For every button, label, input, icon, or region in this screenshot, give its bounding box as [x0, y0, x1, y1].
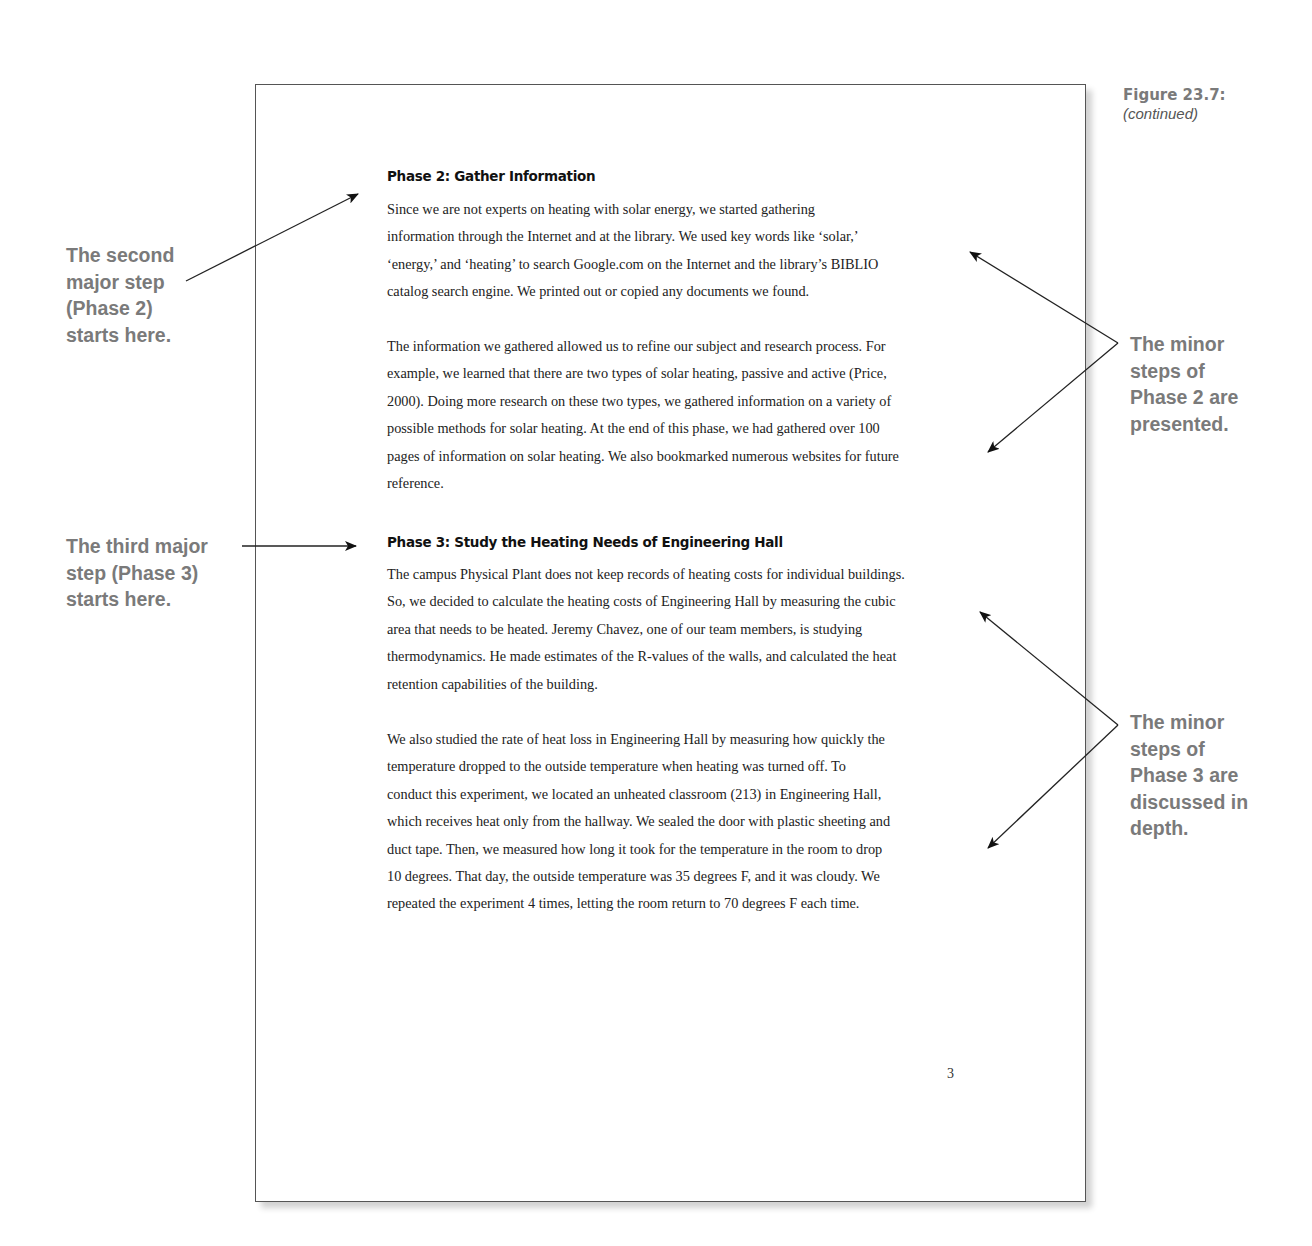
callout-line: (Phase 2): [66, 295, 174, 322]
callout-line: The minor: [1130, 331, 1238, 358]
text-line: retention capabilities of the building.: [387, 671, 962, 698]
section-heading-phase-3: Phase 3: Study the Heating Needs of Engi…: [387, 534, 783, 550]
text-line: We also studied the rate of heat loss in…: [387, 726, 962, 753]
callout-line: The second: [66, 242, 174, 269]
page-number: 3: [947, 1066, 954, 1082]
callout-line: depth.: [1130, 815, 1248, 842]
callout-phase-3-start: The third major step (Phase 3) starts he…: [66, 533, 208, 613]
paragraph-phase-3-intro: The campus Physical Plant does not keep …: [387, 561, 962, 698]
paragraph-phase-2-details: The information we gathered allowed us t…: [387, 333, 962, 497]
section-heading-phase-2: Phase 2: Gather Information: [387, 168, 595, 184]
figure-subtitle: (continued): [1123, 105, 1198, 122]
text-line: thermodynamics. He made estimates of the…: [387, 643, 962, 670]
text-line: example, we learned that there are two t…: [387, 360, 962, 387]
text-line: So, we decided to calculate the heating …: [387, 588, 962, 615]
text-line: 2000). Doing more research on these two …: [387, 388, 962, 415]
text-line: temperature dropped to the outside tempe…: [387, 753, 962, 780]
callout-line: discussed in: [1130, 789, 1248, 816]
text-line: Since we are not experts on heating with…: [387, 196, 962, 223]
callout-line: Phase 3 are: [1130, 762, 1248, 789]
callout-phase-2-minor-steps: The minor steps of Phase 2 are presented…: [1130, 331, 1238, 437]
text-line: information through the Internet and at …: [387, 223, 962, 250]
text-line: reference.: [387, 470, 962, 497]
text-line: which receives heat only from the hallwa…: [387, 808, 962, 835]
text-line: area that needs to be heated. Jeremy Cha…: [387, 616, 962, 643]
callout-phase-3-minor-steps: The minor steps of Phase 3 are discussed…: [1130, 709, 1248, 842]
callout-line: starts here.: [66, 322, 174, 349]
callout-line: The third major: [66, 533, 208, 560]
text-line: The campus Physical Plant does not keep …: [387, 561, 962, 588]
callout-line: steps of: [1130, 358, 1238, 385]
text-line: repeated the experiment 4 times, letting…: [387, 890, 962, 917]
callout-line: The minor: [1130, 709, 1248, 736]
paragraph-phase-3-experiment: We also studied the rate of heat loss in…: [387, 726, 962, 918]
text-line: duct tape. Then, we measured how long it…: [387, 836, 962, 863]
text-line: possible methods for solar heating. At t…: [387, 415, 962, 442]
text-line: ‘energy,’ and ‘heating’ to search Google…: [387, 251, 962, 278]
callout-line: steps of: [1130, 736, 1248, 763]
callout-line: Phase 2 are: [1130, 384, 1238, 411]
callout-line: starts here.: [66, 586, 208, 613]
text-line: 10 degrees. That day, the outside temper…: [387, 863, 962, 890]
text-line: catalog search engine. We printed out or…: [387, 278, 962, 305]
figure-title: Figure 23.7:: [1123, 86, 1226, 104]
text-line: pages of information on solar heating. W…: [387, 443, 962, 470]
text-line: conduct this experiment, we located an u…: [387, 781, 962, 808]
callout-line: major step: [66, 269, 174, 296]
callout-phase-2-start: The second major step (Phase 2) starts h…: [66, 242, 174, 348]
callout-line: presented.: [1130, 411, 1238, 438]
callout-line: step (Phase 3): [66, 560, 208, 587]
text-line: The information we gathered allowed us t…: [387, 333, 962, 360]
paragraph-phase-2-intro: Since we are not experts on heating with…: [387, 196, 962, 306]
